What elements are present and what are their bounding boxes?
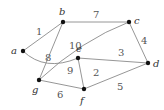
weight-f-d: 5 <box>117 81 123 92</box>
graph-diagram: 1 7 4 8 10 9 3 2 5 6 a b c d e f g <box>0 0 164 110</box>
node-b <box>61 20 65 24</box>
edge-g-c <box>39 22 129 80</box>
weight-a-b: 1 <box>36 26 42 37</box>
node-d <box>146 61 150 65</box>
node-label-b: b <box>59 6 65 17</box>
node-label-f: f <box>79 95 86 106</box>
node-g <box>37 78 41 82</box>
weight-b-c: 7 <box>93 9 99 20</box>
weight-b-g: 8 <box>45 52 51 63</box>
edge-g-f <box>39 80 84 89</box>
weight-a-e: 9 <box>67 65 73 76</box>
weight-g-f: 6 <box>57 89 63 100</box>
node-c <box>127 20 131 24</box>
node-label-e: e <box>76 43 82 54</box>
weight-c-d: 4 <box>141 35 147 46</box>
weight-e-f: 2 <box>93 67 99 78</box>
weight-e-d: 3 <box>118 47 124 58</box>
node-f <box>82 87 86 91</box>
edge-e-f <box>78 58 84 89</box>
node-label-g: g <box>32 84 38 95</box>
node-label-d: d <box>153 58 159 69</box>
node-label-a: a <box>11 45 17 56</box>
edge-e-d <box>78 58 148 63</box>
node-label-c: c <box>134 15 140 26</box>
node-e <box>76 56 80 60</box>
node-a <box>21 49 25 53</box>
